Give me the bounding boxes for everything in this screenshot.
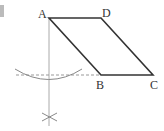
label-A: A: [38, 7, 47, 21]
geometry-figure: A D B C: [0, 0, 164, 131]
parallelogram-ABCD: [49, 18, 153, 75]
label-B: B: [96, 78, 104, 92]
label-C: C: [150, 78, 158, 92]
label-D: D: [102, 6, 111, 20]
